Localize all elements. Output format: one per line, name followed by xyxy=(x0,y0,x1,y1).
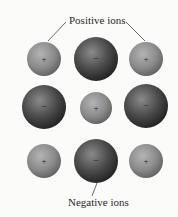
svg-text:−: − xyxy=(93,155,99,166)
ion-positive: + xyxy=(27,144,61,178)
ion-positive: + xyxy=(80,92,112,124)
svg-text:−: − xyxy=(143,100,149,111)
ionic-lattice-diagram: + − + − + − + − + Positive ions Negative… xyxy=(0,0,178,217)
ion-negative: − xyxy=(22,85,66,129)
svg-text:+: + xyxy=(41,156,46,166)
ion-negative: − xyxy=(124,84,168,128)
ion-positive: + xyxy=(129,144,163,178)
negative-leader-line xyxy=(92,183,97,196)
svg-text:+: + xyxy=(93,103,98,113)
svg-text:+: + xyxy=(143,156,148,166)
svg-text:−: − xyxy=(93,53,99,64)
negative-ions-label: Negative ions xyxy=(68,196,129,208)
svg-text:+: + xyxy=(143,54,148,64)
svg-text:+: + xyxy=(41,54,46,64)
positive-leader-line-left xyxy=(48,22,66,41)
ion-grid: + − + − + − + − + xyxy=(0,0,178,217)
positive-leader-line-right xyxy=(126,22,145,41)
svg-text:−: − xyxy=(41,101,47,112)
ion-negative: − xyxy=(74,37,118,81)
ion-positive: + xyxy=(129,42,163,76)
ion-negative: − xyxy=(74,139,118,183)
ion-positive: + xyxy=(27,42,61,76)
positive-ions-label: Positive ions xyxy=(69,14,126,26)
